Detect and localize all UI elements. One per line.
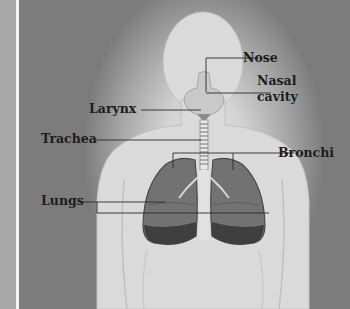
label-bronchi: Bronchi — [278, 146, 334, 159]
left-border-strip — [0, 0, 16, 309]
label-nose: Nose — [243, 51, 278, 64]
label-nasal-cavity-1: Nasal — [257, 74, 296, 87]
respiratory-diagram: Nose Nasal cavity Larynx Trachea Bronchi… — [0, 0, 350, 309]
label-nasal-cavity-2: cavity — [257, 90, 298, 103]
diagram-panel: Nose Nasal cavity Larynx Trachea Bronchi… — [19, 0, 350, 309]
trachea-shape — [200, 120, 208, 170]
mediastinum — [199, 170, 209, 240]
label-larynx: Larynx — [89, 102, 136, 115]
label-lungs: Lungs — [41, 194, 84, 207]
label-trachea: Trachea — [41, 132, 97, 145]
